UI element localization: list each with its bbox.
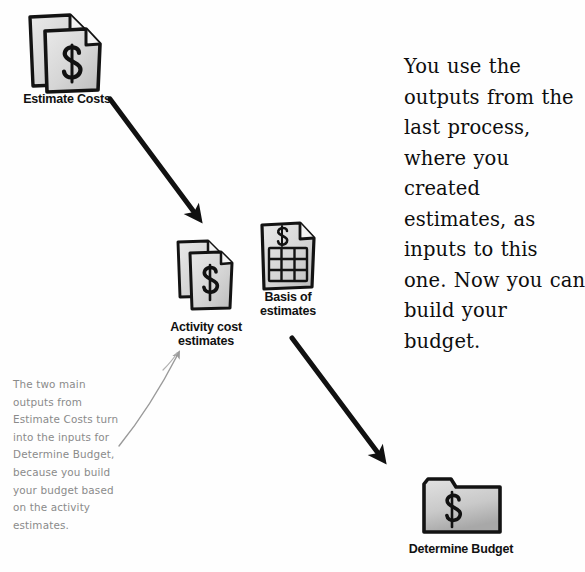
node-label-basis-of-estimates: Basis of estimates [248, 290, 328, 318]
dollar-folder-icon [424, 479, 500, 532]
dollar-grid-document-icon [262, 223, 314, 289]
diagram-canvas: Estimate Costs Activity cost estimates B… [0, 0, 585, 572]
stacked-dollar-documents-icon-activity-cost [178, 241, 232, 309]
explanation-text: You use the outputs from the last proces… [404, 52, 585, 357]
node-label-determine-budget: Determine Budget [385, 542, 537, 556]
arrow-estimate-to-activity [110, 99, 197, 216]
node-label-activity-cost-estimates: Activity cost estimates [152, 320, 260, 348]
node-label-estimate-costs: Estimate Costs [8, 92, 126, 106]
pointer-note-hook [163, 353, 177, 370]
arrow-basis-to-budget [292, 338, 381, 457]
handwritten-annotation: The two main outputs from Estimate Costs… [13, 376, 141, 534]
stacked-dollar-documents-icon-estimate-costs [30, 15, 100, 92]
